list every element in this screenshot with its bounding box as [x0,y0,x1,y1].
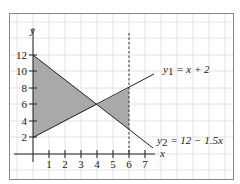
y-tick-label: 6 [22,98,28,110]
y-tick-label: 4 [22,115,28,127]
y-tick-label: 10 [16,65,28,77]
x-tick-label: 3 [78,158,84,170]
x-tick-label: 2 [62,158,68,170]
label-y1: y1 = x + 2 [162,63,210,77]
x-axis-label: x [159,147,165,159]
y-tick-label: 12 [16,49,27,61]
x-tick-label: 1 [46,158,52,170]
y-axis-label: y [29,24,35,36]
chart: 1 2 3 4 5 6 7 12 10 8 6 4 2 y x y1 = x +… [0,0,240,184]
x-tick-label: 6 [126,158,132,170]
y-tick-label: 8 [22,82,28,94]
y-tick-label: 2 [22,131,28,143]
x-tick-label: 4 [94,158,100,170]
x-tick-label: 7 [142,158,148,170]
label-y2: y2 = 12 − 1.5x [156,134,223,148]
x-tick-label: 5 [110,158,116,170]
